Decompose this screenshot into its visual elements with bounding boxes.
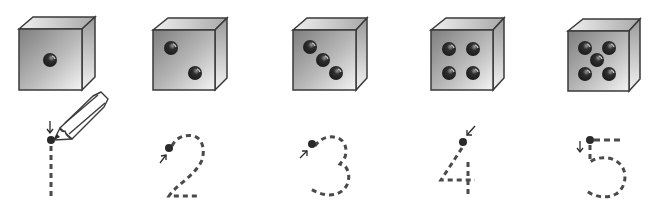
- die-front-face: [153, 30, 215, 90]
- arrow-up-right-icon: [160, 155, 166, 163]
- dashed-stroke: [311, 137, 349, 195]
- die-side-face: [356, 18, 367, 90]
- start-dot: [459, 138, 467, 146]
- trace-number-four[interactable]: [441, 126, 475, 197]
- die-front-face: [431, 30, 493, 90]
- arrow-down-icon: [577, 141, 583, 152]
- die-pip: [466, 42, 480, 56]
- die-pip: [578, 41, 592, 55]
- die-four: [431, 18, 504, 90]
- trace-number-three[interactable]: [300, 137, 349, 195]
- die-pip: [466, 66, 480, 80]
- die-pip: [316, 53, 330, 67]
- die-pip: [602, 41, 616, 55]
- die-one: [19, 17, 95, 90]
- die-pip: [303, 40, 317, 54]
- start-dot: [586, 136, 594, 144]
- start-dot: [308, 140, 316, 148]
- die-side-face: [629, 19, 640, 91]
- dashed-stroke: [441, 148, 475, 180]
- arrow-down-left-icon: [467, 126, 475, 135]
- die-pip: [329, 66, 343, 80]
- start-dot: [165, 144, 173, 152]
- die-two: [153, 18, 227, 90]
- die-pip: [442, 66, 456, 80]
- die-side-face: [493, 18, 504, 90]
- trace-number-one[interactable]: [47, 121, 55, 198]
- die-side-face: [82, 17, 95, 90]
- pencil-icon: [54, 92, 108, 140]
- die-pip: [578, 67, 592, 81]
- die-pip: [164, 41, 178, 55]
- die-side-face: [215, 18, 227, 90]
- die-three: [293, 18, 367, 90]
- die-top-face: [293, 18, 367, 30]
- die-five: [568, 19, 640, 91]
- die-top-face: [431, 18, 504, 30]
- die-pip: [602, 67, 616, 81]
- dashed-stroke: [587, 145, 625, 197]
- arrow-up-right-icon: [300, 151, 307, 158]
- tracing-worksheet: [0, 0, 651, 214]
- arrow-down-icon: [47, 121, 53, 133]
- die-pip: [442, 42, 456, 56]
- die-pip: [590, 53, 604, 67]
- die-pip: [188, 66, 202, 80]
- trace-number-five[interactable]: [577, 136, 625, 197]
- trace-number-two[interactable]: [160, 135, 203, 196]
- dashed-stroke: [169, 135, 203, 196]
- die-top-face: [568, 19, 640, 31]
- die-pip: [43, 53, 57, 67]
